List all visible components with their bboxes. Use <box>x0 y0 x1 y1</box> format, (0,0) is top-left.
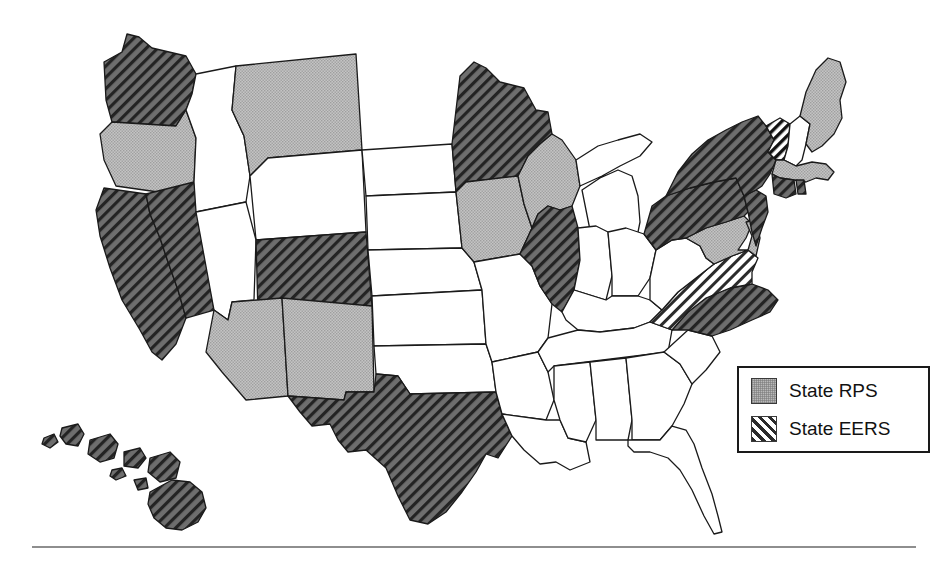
legend-item-rps: State RPS <box>751 377 928 405</box>
us-map <box>0 0 945 562</box>
state-AZ <box>206 298 288 400</box>
state-ND <box>362 144 456 196</box>
state-SD <box>366 192 462 250</box>
footer-divider <box>32 546 916 548</box>
state-HI <box>42 424 206 530</box>
legend-item-eers: State EERS <box>751 415 928 443</box>
us-policy-map-figure: State RPS State EERS <box>0 0 945 562</box>
state-IN <box>574 226 612 300</box>
state-KS <box>372 290 486 346</box>
state-NE <box>368 248 482 296</box>
state-NJ <box>744 190 768 246</box>
state-WY <box>250 150 366 240</box>
legend-label-rps: State RPS <box>789 381 878 400</box>
state-RI <box>796 180 806 194</box>
state-NM <box>282 298 374 400</box>
state-WA <box>104 34 196 126</box>
legend-swatch-rps <box>751 378 777 404</box>
state-AL <box>590 358 632 440</box>
state-ME <box>800 58 846 152</box>
legend-label-eers: State EERS <box>789 419 890 438</box>
map-legend: State RPS State EERS <box>737 366 930 453</box>
legend-swatch-eers <box>751 416 777 442</box>
state-FL <box>628 426 722 534</box>
